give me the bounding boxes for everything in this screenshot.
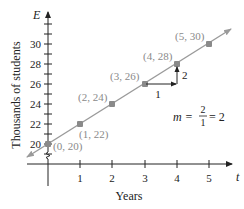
data-point <box>206 41 212 47</box>
svg-text:(1, 22): (1, 22) <box>79 128 109 141</box>
svg-text:24: 24 <box>30 98 42 110</box>
y-tick-labels: 20 22 24 26 28 30 <box>30 38 42 150</box>
svg-text:2: 2 <box>201 104 206 115</box>
x-axis-title: Years <box>116 189 143 203</box>
point-labels: (0, 20) (1, 22) (2, 24) (3, 26) (4, 28) … <box>53 30 205 153</box>
svg-text:28: 28 <box>30 58 42 70</box>
rise-label: 2 <box>182 69 188 81</box>
slope-triangle: 1 2 <box>146 67 188 100</box>
svg-text:5: 5 <box>206 172 212 184</box>
svg-text:22: 22 <box>30 118 41 130</box>
svg-text:(2, 24): (2, 24) <box>78 91 108 104</box>
svg-text:(0, 20): (0, 20) <box>53 140 83 153</box>
svg-text:m =: m = <box>173 110 193 124</box>
data-point <box>45 141 51 147</box>
y-axis-title: Thousands of students <box>9 41 23 149</box>
svg-text:4: 4 <box>174 172 180 184</box>
data-point <box>174 61 180 67</box>
y-axis-variable: E <box>32 8 41 22</box>
slope-equation: m = 2 1 = 2 <box>173 104 225 128</box>
svg-text:3: 3 <box>142 172 148 184</box>
run-label: 1 <box>155 88 161 100</box>
axis-break-icon <box>46 152 50 159</box>
data-point <box>77 121 83 127</box>
data-point <box>109 101 115 107</box>
x-axis-variable: t <box>236 170 240 184</box>
svg-text:= 2: = 2 <box>209 110 225 124</box>
svg-text:30: 30 <box>30 38 42 50</box>
svg-text:(3, 26): (3, 26) <box>110 70 140 83</box>
svg-text:2: 2 <box>109 172 115 184</box>
x-tick-labels: 1 2 3 4 5 <box>77 172 212 184</box>
svg-text:(5, 30): (5, 30) <box>175 30 205 43</box>
svg-text:1: 1 <box>201 117 206 128</box>
svg-text:1: 1 <box>77 172 83 184</box>
chart: Thousands of students E 20 22 24 26 <box>0 0 244 209</box>
svg-text:(4, 28): (4, 28) <box>143 50 173 63</box>
data-line <box>27 29 231 157</box>
svg-text:26: 26 <box>30 78 42 90</box>
y-axis: E <box>32 8 52 186</box>
